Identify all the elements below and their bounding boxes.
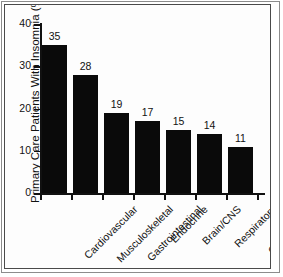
bar-value-cardiovascular: 35 bbox=[42, 30, 67, 42]
bar-genitourinary bbox=[228, 147, 253, 194]
bar-value-musculoskeletal: 28 bbox=[73, 60, 98, 72]
x-tick-2 bbox=[102, 194, 104, 200]
x-tick-3 bbox=[133, 194, 135, 200]
y-tick-label-20: 20 bbox=[19, 102, 31, 114]
bar-value-brain-cns: 15 bbox=[166, 115, 191, 127]
y-tick-40: 40 bbox=[34, 24, 40, 26]
bar-respiratory bbox=[197, 134, 222, 193]
bar-endocrine bbox=[135, 121, 160, 193]
chart-plate-frame: Primary Care Patients With Insomnia (%) … bbox=[4, 4, 271, 269]
y-tick-label-10: 10 bbox=[19, 144, 31, 156]
x-tick-5 bbox=[195, 194, 197, 200]
x-tick-0 bbox=[40, 194, 42, 200]
y-tick-label-40: 40 bbox=[19, 17, 31, 29]
bar-brain-cns bbox=[166, 130, 191, 193]
x-tick-1 bbox=[71, 194, 73, 200]
y-tick-30: 30 bbox=[34, 66, 40, 68]
bar-value-genitourinary: 11 bbox=[228, 132, 253, 144]
x-tick-4 bbox=[164, 194, 166, 200]
bar-value-respiratory: 14 bbox=[197, 119, 222, 131]
bar-musculoskeletal bbox=[73, 75, 98, 193]
x-tick-7 bbox=[257, 194, 259, 200]
bar-value-gastrointestinal: 19 bbox=[104, 98, 129, 110]
y-tick-label-30: 30 bbox=[19, 59, 31, 71]
plot-area: 0 10 20 30 40 bbox=[5, 5, 271, 269]
bar-value-endocrine: 17 bbox=[135, 106, 160, 118]
figure-root: Primary Care Patients With Insomnia (%) … bbox=[0, 0, 283, 277]
bar-cardiovascular bbox=[42, 45, 67, 193]
y-tick-label-0: 0 bbox=[25, 186, 31, 198]
bar-gastrointestinal bbox=[104, 113, 129, 193]
x-axis-line bbox=[40, 193, 265, 195]
y-tick-20: 20 bbox=[34, 109, 40, 111]
x-tick-6 bbox=[226, 194, 228, 200]
y-tick-10: 10 bbox=[34, 151, 40, 153]
